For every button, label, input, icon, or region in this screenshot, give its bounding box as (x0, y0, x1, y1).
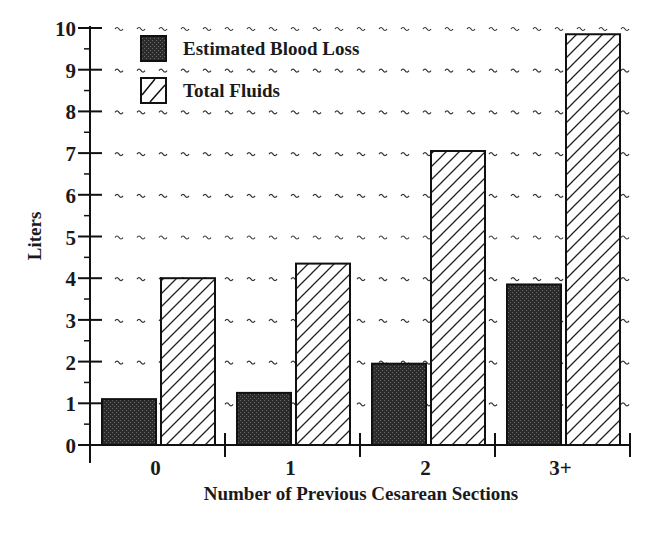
gridline-dash (555, 278, 563, 281)
y-tick-labels: 012345678910 (55, 17, 77, 458)
gridline-dash (335, 236, 343, 239)
bar-blood-loss-3plus (507, 284, 561, 445)
gridline-dash (621, 236, 629, 239)
gridline-dash (357, 403, 365, 406)
y-tick-label: 7 (66, 142, 77, 166)
gridline-dash (379, 319, 387, 322)
gridline-dash (423, 111, 431, 114)
gridline-dash (247, 361, 255, 364)
gridline-dash (203, 28, 211, 31)
gridline-dash (225, 69, 233, 72)
legend-label-total-fluids: Total Fluids (183, 80, 280, 101)
gridline-dash (137, 111, 145, 114)
gridline-dash (577, 28, 585, 31)
gridline-dash (225, 236, 233, 239)
gridline-dash (621, 69, 629, 72)
gridline-dash (291, 236, 299, 239)
gridline-dash (401, 69, 409, 72)
gridline-dash (115, 153, 123, 156)
gridline-dash (115, 278, 123, 281)
gridline-dash (467, 111, 475, 114)
gridline-dash (533, 236, 541, 239)
gridline-dash (379, 69, 387, 72)
gridline-dash (511, 194, 519, 197)
gridline-dash (115, 111, 123, 114)
gridline-dash (313, 153, 321, 156)
gridline-dash (203, 153, 211, 156)
gridline-dash (423, 194, 431, 197)
gridline-dash (247, 153, 255, 156)
gridline-dash (555, 194, 563, 197)
legend-swatch-blood-loss (141, 36, 166, 61)
gridline-dash (137, 69, 145, 72)
gridline-dash (181, 69, 189, 72)
gridline-dash (511, 111, 519, 114)
bar-total-fluids-0 (161, 278, 215, 445)
x-tick-label: 1 (285, 456, 296, 480)
gridline-dash (621, 28, 629, 31)
gridline-dash (423, 69, 431, 72)
gridline-dash (511, 236, 519, 239)
gridline-dash (401, 278, 409, 281)
gridline-dash (269, 319, 277, 322)
gridline-dash (247, 111, 255, 114)
gridline-dash (357, 278, 365, 281)
gridline-dash (269, 236, 277, 239)
gridline-dash (247, 69, 255, 72)
gridline-dash (269, 361, 277, 364)
gridline-dash (621, 403, 629, 406)
gridline-dash (225, 111, 233, 114)
gridline-dash (269, 111, 277, 114)
gridline-dash (555, 153, 563, 156)
gridline-dash (489, 153, 497, 156)
gridline-dash (379, 278, 387, 281)
gridline-dash (137, 153, 145, 156)
gridline-dash (621, 194, 629, 197)
gridline-dash (203, 111, 211, 114)
gridline-dash (137, 194, 145, 197)
gridline-dash (621, 319, 629, 322)
y-axis-title: Liters (24, 212, 45, 261)
gridline-dash (115, 361, 123, 364)
gridline-dash (445, 111, 453, 114)
gridline-dash (357, 153, 365, 156)
gridline-dash (247, 194, 255, 197)
bar-blood-loss-1 (237, 393, 291, 445)
gridline-dash (137, 319, 145, 322)
gridline-dash (181, 194, 189, 197)
gridline-dash (115, 28, 123, 31)
gridline-dash (533, 278, 541, 281)
gridline-dash (247, 28, 255, 31)
gridline-dash (159, 69, 167, 72)
gridline-dash (555, 69, 563, 72)
x-axis-title: Number of Previous Cesarean Sections (204, 483, 519, 504)
y-tick-label: 1 (66, 392, 77, 416)
gridline-dash (621, 153, 629, 156)
gridline-dash (357, 28, 365, 31)
gridline-dash (159, 28, 167, 31)
gridline-dash (225, 403, 233, 406)
y-tick-label: 4 (66, 267, 77, 291)
gridline-dash (511, 69, 519, 72)
gridline-dash (269, 278, 277, 281)
gridline-dash (379, 153, 387, 156)
gridline-dash (313, 194, 321, 197)
gridline-dash (401, 28, 409, 31)
gridline-dash (269, 194, 277, 197)
gridline-dash (335, 69, 343, 72)
y-tick-label: 3 (66, 309, 77, 333)
gridline-dash (489, 361, 497, 364)
gridline-dash (137, 361, 145, 364)
gridline-dash (379, 194, 387, 197)
gridline-dash (489, 28, 497, 31)
gridline-dash (137, 236, 145, 239)
gridline-dash (467, 28, 475, 31)
gridline-dash (269, 69, 277, 72)
gridline-dash (533, 111, 541, 114)
bar-blood-loss-2 (372, 364, 426, 445)
gridline-dash (599, 28, 607, 31)
gridline-dash (533, 69, 541, 72)
gridline-dash (159, 111, 167, 114)
y-tick-label: 6 (66, 184, 77, 208)
gridline-dash (489, 111, 497, 114)
